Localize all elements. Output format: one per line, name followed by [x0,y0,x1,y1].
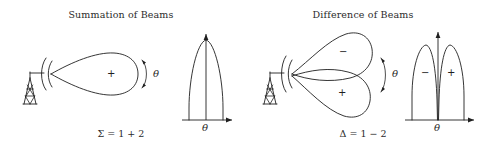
antenna-tower-icon [23,72,44,104]
summation-equation: Σ = 1 + 2 [0,128,242,139]
panel-summation: Summation of Beams [0,0,242,152]
panel-difference: Difference of Beams [242,0,484,152]
sum-lobe-sign: + [107,69,115,79]
antenna-tower-icon [263,72,284,104]
difference-beam-lobe-lower [292,69,370,117]
difference-lobe-lower-sign: + [338,88,346,98]
difference-plot-right-sign: + [447,68,455,78]
parabolic-dish-icon [282,56,293,92]
difference-pattern-curve-right [439,45,465,120]
beam-angle-arrow [381,58,386,92]
sum-plot-axes [182,34,232,122]
parabolic-dish-icon [42,58,53,90]
difference-pattern-curve-left [412,45,438,120]
sum-beam-angle-label: θ [153,68,159,79]
difference-equation: Δ = 1 − 2 [242,128,484,139]
beam-angle-arrow [142,60,147,88]
difference-beam-lobe-upper [292,33,372,81]
difference-beam-angle-label: θ [392,68,398,79]
sum-beam-lobe [51,53,138,95]
difference-plot-left-sign: − [421,68,429,78]
difference-lobe-upper-sign: − [339,47,347,57]
